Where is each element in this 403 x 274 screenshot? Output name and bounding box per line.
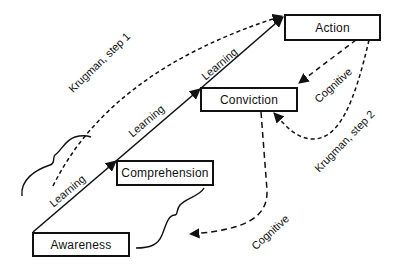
node-action: Action: [284, 14, 381, 41]
node-conviction: Conviction: [200, 87, 298, 112]
node-comprehension: Comprehension: [116, 160, 214, 186]
node-action-label: Action: [315, 21, 350, 35]
node-comprehension-label: Comprehension: [121, 166, 208, 180]
wavy-line-right: [136, 188, 204, 248]
learning-arrows: [33, 17, 283, 232]
node-awareness-label: Awareness: [51, 238, 112, 252]
node-conviction-label: Conviction: [220, 93, 278, 107]
node-awareness: Awareness: [32, 232, 130, 257]
diagram-canvas: Action Conviction Comprehension Awarenes…: [0, 0, 403, 274]
